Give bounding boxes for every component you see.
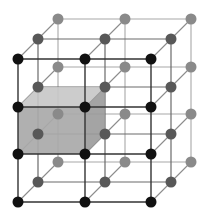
back-node (186, 157, 197, 168)
middle-node (166, 82, 177, 93)
middle-node (33, 82, 44, 93)
middle-node (100, 177, 111, 188)
back-node (53, 109, 64, 120)
middle-node (100, 129, 111, 140)
front-node (146, 197, 157, 208)
lattice-diagram (0, 0, 206, 218)
back-node (186, 14, 197, 25)
back-node (120, 62, 131, 73)
front-node (80, 197, 91, 208)
front-node (80, 102, 91, 113)
front-node (80, 149, 91, 160)
highlighted-unit-cube (18, 87, 105, 154)
back-node (120, 109, 131, 120)
front-node (80, 54, 91, 65)
middle-node (166, 34, 177, 45)
middle-node (100, 82, 111, 93)
middle-node (33, 34, 44, 45)
front-node (13, 149, 24, 160)
front-node (146, 54, 157, 65)
middle-node (166, 177, 177, 188)
middle-node (166, 129, 177, 140)
back-node (120, 157, 131, 168)
front-node (146, 149, 157, 160)
middle-node (33, 177, 44, 188)
back-node (186, 109, 197, 120)
middle-node (100, 34, 111, 45)
back-node (53, 14, 64, 25)
back-node (186, 62, 197, 73)
cube-front-face (18, 107, 85, 154)
front-node (13, 197, 24, 208)
back-node (120, 14, 131, 25)
middle-node (33, 129, 44, 140)
back-node (53, 157, 64, 168)
front-node (13, 54, 24, 65)
back-node (53, 62, 64, 73)
front-node (13, 102, 24, 113)
front-node (146, 102, 157, 113)
